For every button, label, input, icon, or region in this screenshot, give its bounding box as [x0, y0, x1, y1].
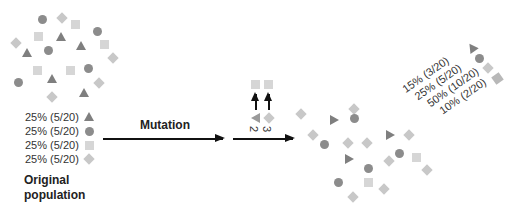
circle-icon	[334, 178, 343, 187]
legend-row-circle: 25% (5/20)	[25, 124, 94, 138]
triangle-icon	[330, 115, 339, 125]
square-icon	[491, 72, 504, 85]
diamond-icon	[10, 37, 21, 48]
legend-label: 25% (5/20)	[25, 124, 79, 138]
diamond-icon	[347, 191, 358, 202]
circle-icon	[395, 149, 404, 158]
diamond-icon	[93, 77, 104, 88]
legend-label: 25% (5/20)	[25, 110, 79, 124]
circle-icon	[320, 140, 329, 149]
circle-icon	[475, 54, 484, 63]
mutation-count-3: 3	[261, 126, 273, 132]
square-icon	[100, 40, 109, 49]
diamond-icon	[378, 183, 389, 194]
triangle-icon	[79, 88, 89, 97]
legend-row-diamond: 25% (5/20)	[25, 152, 94, 166]
up-arrow-icon	[268, 94, 270, 110]
triangle-icon	[22, 48, 32, 57]
triangle-icon	[76, 41, 86, 50]
triangle-icon	[84, 112, 94, 121]
square-icon	[34, 32, 43, 41]
circle-icon	[38, 15, 47, 24]
diamond-icon	[383, 155, 394, 166]
mutation-label: Mutation	[140, 118, 190, 133]
square-icon	[364, 178, 373, 187]
circle-icon	[85, 127, 94, 136]
circle-icon	[84, 64, 93, 73]
diamond-icon	[403, 129, 414, 140]
triangle-icon	[56, 32, 66, 41]
diamond-icon	[83, 153, 94, 164]
circle-icon	[44, 46, 53, 55]
triangle-icon	[345, 154, 354, 164]
square-icon	[33, 66, 42, 75]
triangle-icon	[251, 113, 260, 123]
legend-row-square: 25% (5/20)	[25, 138, 94, 152]
result-arrow	[233, 138, 293, 140]
triangle-icon	[47, 74, 57, 83]
square-icon	[412, 153, 421, 162]
diamond-icon	[361, 137, 372, 148]
diamond-icon	[295, 108, 306, 119]
diamond-icon	[482, 62, 493, 73]
up-arrow-icon	[255, 94, 257, 110]
circle-icon	[364, 164, 373, 173]
original-population-title: Original population	[24, 173, 94, 203]
circle-icon	[350, 114, 359, 123]
diamond-icon	[263, 112, 274, 123]
diamond-icon	[342, 137, 353, 148]
diamond-icon	[46, 91, 57, 102]
diamond-icon	[56, 12, 67, 23]
original-legend: 25% (5/20) 25% (5/20) 25% (5/20) 25% (5/…	[25, 110, 94, 166]
diamond-icon	[421, 164, 432, 175]
square-icon	[71, 20, 80, 29]
mutation-arrow	[103, 138, 223, 140]
square-icon	[264, 80, 273, 89]
circle-icon	[14, 78, 23, 87]
square-icon	[66, 66, 75, 75]
mutation-count-2: 2	[248, 126, 260, 132]
circle-icon	[93, 27, 102, 36]
legend-label: 25% (5/20)	[25, 138, 79, 152]
legend-row-triangle: 25% (5/20)	[25, 110, 94, 124]
diamond-icon	[348, 103, 359, 114]
diamond-icon	[107, 52, 118, 63]
legend-label: 25% (5/20)	[25, 152, 79, 166]
diamond-icon	[307, 129, 318, 140]
square-icon	[85, 141, 94, 150]
triangle-icon	[465, 41, 478, 54]
square-icon	[251, 80, 260, 89]
triangle-icon	[386, 130, 395, 140]
